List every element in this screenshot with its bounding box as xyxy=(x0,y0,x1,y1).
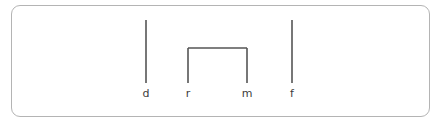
bracket-figure xyxy=(0,0,441,123)
stem-label-r: r xyxy=(176,88,200,99)
diagram-canvas: d r m f xyxy=(0,0,441,123)
figure-svg xyxy=(0,0,441,123)
stem-label-f: f xyxy=(280,88,304,99)
stem-label-m: m xyxy=(235,88,259,99)
stem-label-d: d xyxy=(134,88,158,99)
